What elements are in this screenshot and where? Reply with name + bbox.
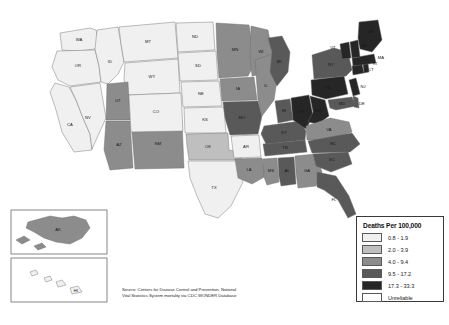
legend-label: 2.0 - 3.9 [388,247,408,253]
legend-row: 2.0 - 3.9 [362,244,439,255]
state-label-ma: MA [378,55,385,60]
legend: Deaths Per 100,000 0.8 - 1.92.0 - 3.94.0… [356,216,444,302]
legend-label: 0.8 - 1.9 [388,235,408,241]
state-label-ok: OK [205,144,211,149]
state-label-ga: GA [304,168,310,173]
legend-title: Deaths Per 100,000 [363,222,439,229]
state-label-al: AL [284,168,290,173]
state-label-la: LA [246,167,251,172]
legend-label: 4.0 - 9.4 [388,259,408,265]
state-label-mt: MT [145,39,152,44]
state-label-tx: TX [211,185,217,190]
state-label-wv: WV [315,108,322,113]
state-label-va: VA [326,127,332,132]
legend-row: Unreliable [362,292,439,303]
state-label-az: AZ [116,142,122,147]
state-label-ca: CA [67,122,73,127]
state-label-nh: NH [361,43,367,48]
state-label-mo: MO [239,115,246,120]
state-label-ny: NY [328,62,334,67]
legend-label: 9.5 - 17.2 [388,271,411,277]
state-label-ak: AK [55,227,61,232]
legend-row: 0.8 - 1.9 [362,232,439,243]
state-label-id: ID [108,59,112,64]
state-nj[interactable] [349,78,360,96]
source-note: Source: Centers for Disease Control and … [122,287,337,299]
state-label-wi: WI [258,49,263,54]
state-label-ct: CT [368,67,374,72]
state-label-nv: NV [85,115,91,120]
choropleth-map-figure: WAORCANVIDMTWYUTAZNMCONDSDNEKSOKTXMNIAMO… [0,0,449,325]
state-label-wa: WA [76,37,83,42]
state-nh[interactable] [350,40,360,58]
state-label-ks: KS [202,117,208,122]
legend-row: 4.0 - 9.4 [362,256,439,267]
legend-label: Unreliable [388,295,413,301]
legend-row: 17.3 - 33.3 [362,280,439,291]
legend-swatch [362,281,382,290]
state-label-wy: WY [149,74,156,79]
state-label-hi: HI [74,288,78,293]
state-label-ar: AR [243,144,249,149]
state-label-nd: ND [192,34,198,39]
state-label-vt: VT [330,45,336,50]
legend-row: 9.5 - 17.2 [362,268,439,279]
state-label-mn: MN [232,47,239,52]
state-label-ms: MS [268,168,275,173]
state-label-fl: FL [332,197,338,202]
state-label-ne: NE [198,91,204,96]
state-label-oh: OH [298,109,304,114]
state-label-sd: SD [195,63,201,68]
legend-label: 17.3 - 33.3 [388,283,414,289]
state-label-me: ME [368,29,375,34]
state-label-or: OR [75,63,81,68]
legend-swatch [362,245,382,254]
source-line-2: Vital Statistics System mortality via CD… [122,293,337,299]
state-fl[interactable] [317,172,356,218]
state-vt[interactable] [340,42,351,59]
state-label-ky: KY [281,130,287,135]
legend-swatch [362,293,382,302]
legend-swatch [362,269,382,278]
hawaii-inset-frame [11,258,107,302]
state-label-sc: SC [329,157,335,162]
state-label-nj: NJ [360,84,365,89]
state-label-mi: MI [277,59,282,64]
state-label-pa: PA [325,85,331,90]
state-label-tn: TN [282,145,288,150]
state-label-ia: IA [236,86,240,91]
state-label-nm: NM [155,141,162,146]
state-label-de: DE [359,101,365,106]
legend-swatch [362,257,382,266]
state-label-ut: UT [115,98,121,103]
state-label-in: IN [282,108,286,113]
state-label-nc: NC [330,141,336,146]
legend-swatch [362,233,382,242]
state-label-ri: RI [373,61,377,66]
state-label-il: IL [264,83,268,88]
legend-rows: 0.8 - 1.92.0 - 3.94.0 - 9.49.5 - 17.217.… [362,232,439,303]
state-label-md: MD [339,101,346,106]
state-label-co: CO [153,109,159,114]
